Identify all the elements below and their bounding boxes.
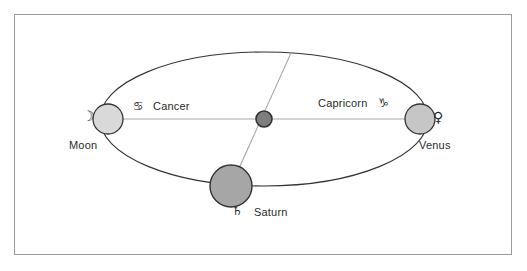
diagram-canvas: ♋ Cancer Capricorn ♑ ☽ Moon ♀ Venus ♄ Sa… [0, 0, 527, 271]
cancer-label: Cancer [153, 100, 190, 112]
diagram-graphics [0, 0, 527, 271]
saturn-label: Saturn [254, 206, 288, 218]
capricorn-label: Capricorn [318, 97, 368, 109]
saturn-glyph: ♄ [232, 205, 243, 217]
cancer-glyph: ♋ [133, 100, 144, 112]
venus-label: Venus [419, 139, 451, 151]
moon-label: Moon [69, 139, 97, 151]
planet-venus [405, 104, 435, 134]
capricorn-glyph: ♑ [378, 97, 389, 109]
center-node [256, 111, 272, 127]
planet-saturn [210, 165, 252, 207]
venus-glyph: ♀ [433, 110, 443, 124]
moon-glyph: ☽ [82, 109, 95, 123]
planet-moon [93, 104, 123, 134]
